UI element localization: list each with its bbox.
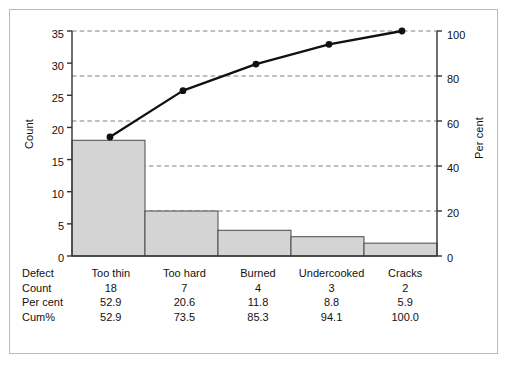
count-cell-0: 18 — [74, 281, 148, 296]
cumulative-line-markers — [107, 28, 406, 141]
cum-label: Cum% — [22, 310, 74, 325]
defect-label: Defect — [22, 266, 74, 281]
defect-cell-1: Too hard — [148, 266, 222, 281]
bar-cracks — [364, 243, 437, 256]
cum-cell-1: 73.5 — [148, 310, 222, 325]
defect-row: DefectToo thinToo hardBurnedUndercookedC… — [22, 266, 442, 281]
per-cent-cell-3: 8.8 — [295, 295, 369, 310]
bar-too-hard — [145, 211, 218, 256]
defect-cell-0: Too thin — [74, 266, 148, 281]
per-cent-label: Per cent — [22, 295, 74, 310]
per-cent-cell-0: 52.9 — [74, 295, 148, 310]
defect-cell-4: Cracks — [368, 266, 442, 281]
bar-too-thin — [72, 140, 145, 256]
per-cent-cell-1: 20.6 — [148, 295, 222, 310]
count-cell-1: 7 — [148, 281, 222, 296]
cum-cell-4: 100.0 — [368, 310, 442, 325]
per-cent-cell-4: 5.9 — [368, 295, 442, 310]
cum-marker-too-thin — [107, 134, 114, 141]
cum-marker-cracks — [399, 28, 406, 35]
cum-marker-too-hard — [180, 87, 187, 94]
bar-undercooked — [291, 237, 364, 256]
cum-cell-3: 94.1 — [295, 310, 369, 325]
defect-data-table: DefectToo thinToo hardBurnedUndercookedC… — [22, 266, 442, 324]
per-cent-cell-2: 11.8 — [221, 295, 295, 310]
bar-burned — [218, 230, 291, 256]
cum-cell-2: 85.3 — [221, 310, 295, 325]
pareto-chart-figure: Count Per cent 0 5 10 15 20 25 30 35 0 2… — [0, 0, 511, 367]
cum-row: Cum%52.973.585.394.1100.0 — [22, 310, 442, 325]
count-cell-2: 4 — [221, 281, 295, 296]
defect-cell-2: Burned — [221, 266, 295, 281]
count-cell-4: 2 — [368, 281, 442, 296]
count-row: Count187432 — [22, 281, 442, 296]
cum-marker-burned — [253, 61, 260, 68]
cum-marker-undercooked — [326, 41, 333, 48]
bar-series — [72, 140, 437, 256]
count-cell-3: 3 — [295, 281, 369, 296]
count-label: Count — [22, 281, 74, 296]
cum-cell-0: 52.9 — [74, 310, 148, 325]
defect-cell-3: Undercooked — [295, 266, 369, 281]
per-cent-row: Per cent52.920.611.88.85.9 — [22, 295, 442, 310]
